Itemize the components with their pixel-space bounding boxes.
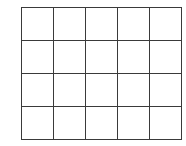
grid-cell <box>54 107 86 140</box>
grid-row <box>22 74 182 107</box>
grid-cell <box>118 107 150 140</box>
grid-cell <box>22 8 54 41</box>
grid-cell <box>150 41 182 74</box>
grid-cell <box>22 74 54 107</box>
grid-row <box>22 8 182 41</box>
grid-row <box>22 41 182 74</box>
grid-cell <box>118 41 150 74</box>
grid-cell <box>54 74 86 107</box>
grid-cell <box>86 74 118 107</box>
grid-cell <box>150 107 182 140</box>
grid-cell <box>86 8 118 41</box>
grid-row <box>22 107 182 140</box>
grid-cell <box>118 8 150 41</box>
grid-cell <box>86 107 118 140</box>
grid-cell <box>22 41 54 74</box>
grid-cell <box>54 8 86 41</box>
grid-cell <box>22 107 54 140</box>
grid-cell <box>86 41 118 74</box>
grid-cell <box>150 8 182 41</box>
grid-body <box>22 8 182 140</box>
empty-grid <box>21 7 182 140</box>
grid-cell <box>150 74 182 107</box>
grid-cell <box>118 74 150 107</box>
grid-cell <box>54 41 86 74</box>
